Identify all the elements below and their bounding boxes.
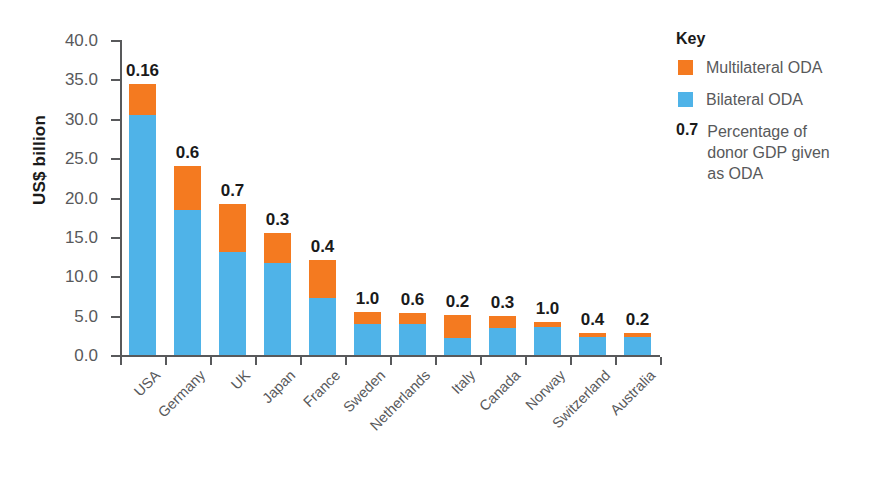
bar-segment-bilateral (444, 338, 471, 355)
bar-uk[interactable]: 0.7 (219, 204, 246, 355)
x-axis-tick (390, 357, 392, 365)
x-axis-label-italy: Italy (448, 367, 478, 397)
legend-entry-label: Multilateral ODA (706, 57, 822, 78)
bar-segment-multilateral (264, 233, 291, 263)
x-axis-label-uk: UK (227, 367, 253, 393)
y-axis-tick: 0.0 (111, 355, 120, 357)
bar-value-label: 0.16 (126, 61, 159, 81)
bar-value-label: 0.3 (491, 293, 515, 313)
bar-value-label: 1.0 (356, 289, 380, 309)
x-axis-tick (165, 357, 167, 365)
bar-segment-multilateral (579, 333, 606, 337)
y-axis-tick: 40.0 (111, 40, 120, 42)
bar-segment-multilateral (489, 316, 516, 329)
x-axis-tick (120, 357, 122, 365)
bar-segment-multilateral (444, 315, 471, 338)
y-axis-tick-label: 15.0 (38, 228, 98, 248)
bar-segment-multilateral (354, 312, 381, 325)
x-axis-tick (345, 357, 347, 365)
y-axis-tick-label: 35.0 (38, 70, 98, 90)
bar-norway[interactable]: 1.0 (534, 322, 561, 355)
y-axis-line (120, 40, 122, 356)
y-axis-tick: 25.0 (111, 158, 120, 160)
legend-entries: Multilateral ODABilateral ODA0.7Percenta… (676, 57, 866, 185)
x-axis-label-france: France (300, 367, 343, 410)
y-axis-tick: 15.0 (111, 237, 120, 239)
bar-segment-multilateral (624, 333, 651, 337)
x-axis-label-canada: Canada (476, 367, 523, 414)
x-axis-tick (435, 357, 437, 365)
y-axis-tick: 35.0 (111, 79, 120, 81)
bar-canada[interactable]: 0.3 (489, 316, 516, 355)
bar-italy[interactable]: 0.2 (444, 315, 471, 355)
bar-segment-multilateral (174, 166, 201, 210)
y-axis-tick-label: 5.0 (38, 307, 98, 327)
bar-segment-bilateral (129, 115, 156, 355)
bar-segment-bilateral (264, 263, 291, 355)
legend-title: Key (676, 30, 866, 48)
bar-value-label: 0.3 (266, 210, 290, 230)
legend-entry-label: Bilateral ODA (706, 89, 803, 110)
legend: Key Multilateral ODABilateral ODA0.7Perc… (676, 30, 866, 196)
bar-australia[interactable]: 0.2 (624, 333, 651, 355)
legend-entry-label: Percentage of donor GDP given as ODA (707, 121, 832, 184)
bilateral-oda-swatch (678, 92, 693, 107)
bar-segment-bilateral (219, 252, 246, 355)
bar-france[interactable]: 0.4 (309, 260, 336, 355)
bar-value-label: 0.7 (221, 181, 245, 201)
x-axis-tick (570, 357, 572, 365)
x-axis-tick (210, 357, 212, 365)
y-axis-tick-label: 20.0 (38, 189, 98, 209)
bar-segment-bilateral (174, 210, 201, 355)
bar-switzerland[interactable]: 0.4 (579, 333, 606, 355)
x-axis-label-australia: Australia (607, 367, 658, 418)
y-axis-tick-label: 25.0 (38, 149, 98, 169)
x-axis-tick (300, 357, 302, 365)
bar-segment-bilateral (309, 298, 336, 355)
bar-segment-multilateral (399, 313, 426, 324)
bar-usa[interactable]: 0.16 (129, 84, 156, 355)
y-axis-tick-label: 40.0 (38, 31, 98, 51)
plot-area: 40.035.030.025.020.015.010.05.00.0 0.160… (120, 40, 660, 355)
bar-segment-bilateral (579, 337, 606, 355)
y-axis-tick: 10.0 (111, 276, 120, 278)
multilateral-oda-swatch (678, 60, 693, 75)
bar-segment-multilateral (219, 204, 246, 252)
x-axis-label-germany: Germany (154, 367, 207, 420)
x-axis-label-usa: USA (130, 367, 162, 399)
x-axis-label-japan: Japan (259, 367, 298, 406)
bar-value-label: 0.6 (401, 290, 425, 310)
bar-japan[interactable]: 0.3 (264, 233, 291, 355)
bar-value-label: 0.4 (581, 310, 605, 330)
legend-entry: Multilateral ODA (676, 57, 866, 78)
bar-netherlands[interactable]: 0.6 (399, 313, 426, 355)
y-axis-tick-label: 10.0 (38, 267, 98, 287)
y-axis-tick: 5.0 (111, 316, 120, 318)
bar-segment-bilateral (399, 324, 426, 355)
x-axis-tick (525, 357, 527, 365)
bar-segment-multilateral (534, 322, 561, 327)
bar-segment-bilateral (534, 327, 561, 355)
legend-value-example: 0.7 (676, 121, 698, 139)
bar-value-label: 0.2 (626, 310, 650, 330)
bar-segment-bilateral (354, 324, 381, 355)
y-axis-tick: 20.0 (111, 198, 120, 200)
x-axis-tick (255, 357, 257, 365)
x-axis-tick (480, 357, 482, 365)
bar-value-label: 0.6 (176, 143, 200, 163)
y-axis-tick-label: 0.0 (38, 346, 98, 366)
x-axis-tick (660, 357, 662, 365)
y-axis-tick-label: 30.0 (38, 110, 98, 130)
bar-segment-multilateral (129, 84, 156, 115)
bar-segment-bilateral (624, 337, 651, 355)
bar-value-label: 0.2 (446, 292, 470, 312)
bar-sweden[interactable]: 1.0 (354, 312, 381, 355)
bar-value-label: 0.4 (311, 237, 335, 257)
legend-entry: Bilateral ODA (676, 89, 866, 110)
bar-segment-multilateral (309, 260, 336, 299)
bar-value-label: 1.0 (536, 299, 560, 319)
y-axis-tick: 30.0 (111, 119, 120, 121)
bar-germany[interactable]: 0.6 (174, 166, 201, 355)
bar-segment-bilateral (489, 328, 516, 355)
legend-entry: 0.7Percentage of donor GDP given as ODA (676, 121, 866, 184)
